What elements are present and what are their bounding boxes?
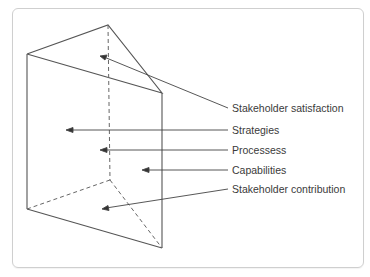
arrowhead-icon: [102, 206, 109, 211]
arrowhead-icon: [142, 168, 149, 173]
label-stakeholder-satisfaction: Stakeholder satisfaction: [232, 102, 343, 114]
prism-hidden-vertical-edge: [108, 25, 110, 180]
label-stakeholder-contribution: Stakeholder contribution: [232, 183, 345, 195]
label-processess: Processess: [232, 144, 286, 156]
label-strategies: Strategies: [232, 124, 279, 136]
arrowhead-icon: [66, 128, 73, 133]
prism-diagram: [0, 0, 370, 277]
prism-bottom-front-edge: [27, 209, 162, 248]
prism-hidden-right-edge: [110, 180, 162, 248]
prism-top-face: [27, 25, 162, 93]
arrowhead-icon: [100, 148, 107, 153]
prism-hidden-left-edge: [27, 180, 110, 209]
arrowhead-icon: [100, 55, 107, 60]
leader-stakeholder-satisfaction: [104, 57, 228, 108]
label-capabilities: Capabilities: [232, 164, 286, 176]
